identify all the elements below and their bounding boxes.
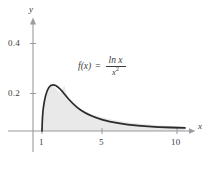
x-axis-label: x <box>198 121 202 131</box>
x-axis-arrow-icon <box>189 128 196 134</box>
y-axis-arrow-icon <box>30 18 36 25</box>
x-tick-label-10: 10 <box>171 137 181 147</box>
function-name: f(x) <box>78 61 91 71</box>
figure-container: y x 0.4 0.2 1 5 10 f(x) = ln x x2 <box>0 0 209 171</box>
x-tick-label-5: 5 <box>99 137 104 147</box>
fraction-denominator: x2 <box>109 68 122 77</box>
fraction: ln x x2 <box>106 56 126 77</box>
equals-sign: = <box>95 61 100 71</box>
x-tick-label-1: 1 <box>39 137 44 147</box>
y-axis-label: y <box>29 4 33 14</box>
function-annotation: f(x) = ln x x2 <box>78 56 126 77</box>
y-tick-label-0.2: 0.2 <box>8 88 20 98</box>
denominator-exponent: 2 <box>116 65 119 72</box>
y-tick-label-0.4: 0.4 <box>8 38 20 48</box>
